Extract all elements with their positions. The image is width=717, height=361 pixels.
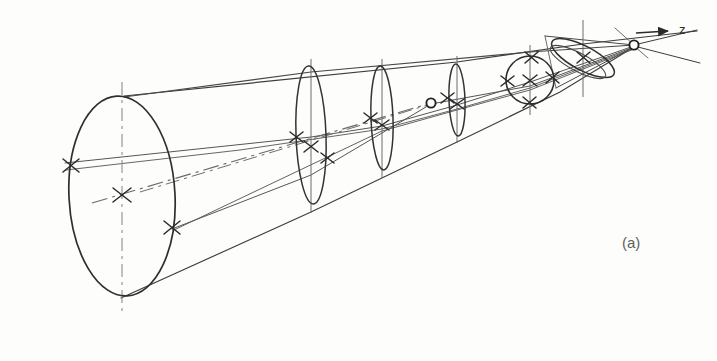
ray-from-lower-cross: [174, 49, 634, 230]
ray-outer-envelope-top-2: [124, 45, 634, 97]
ray-outer-envelope-top: [124, 31, 697, 96]
optical-elements-group: [64, 31, 620, 299]
optical-axis-dash-dot-2: [140, 104, 431, 192]
lens2-lower-cross: [321, 153, 334, 163]
optical-ray-diagram-figure: z (a): [0, 0, 717, 361]
z-axis-label: z: [679, 22, 686, 37]
ray-tilt-lower: [556, 47, 634, 88]
centerline-group: [92, 20, 583, 312]
lens5-left-cross: [501, 76, 514, 86]
z-axis-arrow-line: [636, 31, 668, 33]
entrance-lower-right-cross: [164, 221, 180, 234]
intermediate-focus-point: [426, 98, 435, 107]
panel-label: (a): [622, 234, 640, 251]
ray-lower-marginal: [121, 47, 634, 298]
focal-point-group: [426, 40, 638, 107]
final-focus-point: [629, 40, 638, 49]
diagram-canvas: [0, 0, 717, 361]
ray-upper-chief: [65, 46, 634, 163]
